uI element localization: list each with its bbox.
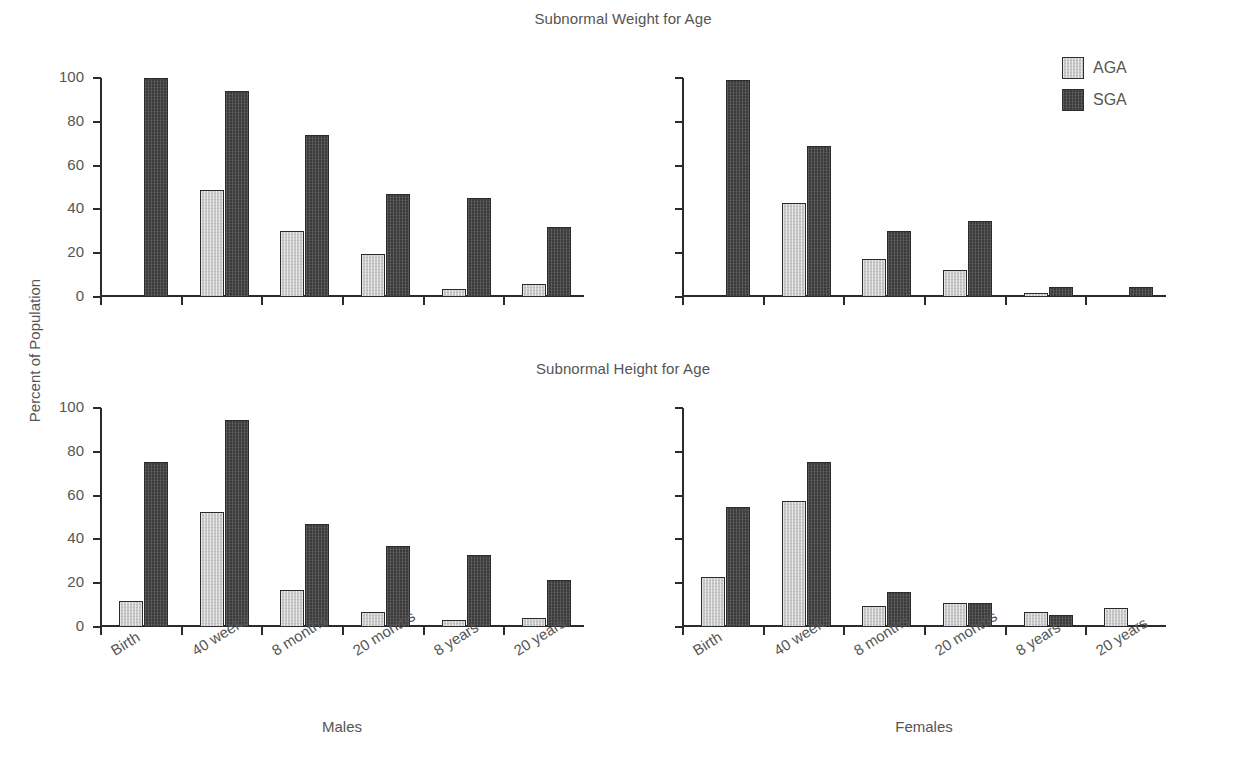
x-axis-tick — [682, 296, 684, 305]
y-axis-tick-label: 60 — [44, 156, 84, 173]
y-axis-tick — [675, 252, 683, 254]
x-axis-tick — [261, 296, 263, 305]
x-axis-tick — [1005, 296, 1007, 305]
x-axis-tick — [100, 296, 102, 305]
y-axis-tick-label: 40 — [44, 529, 84, 546]
x-axis-tick — [100, 626, 102, 635]
figure-canvas: Subnormal Weight for Age Subnormal Heigh… — [0, 0, 1246, 760]
y-axis-tick-label: 100 — [44, 68, 84, 85]
bar-aga-8-months — [862, 259, 886, 297]
y-axis-tick-label: 0 — [44, 617, 84, 634]
plot-area: 100806040200 — [100, 78, 584, 297]
bar-aga-40-weeks — [782, 501, 806, 627]
bar-sga-20-years — [1129, 287, 1153, 297]
x-axis-tick — [181, 626, 183, 635]
x-axis-category-label: Birth — [689, 628, 724, 659]
plot-area — [682, 78, 1166, 297]
legend-label-aga: AGA — [1093, 59, 1127, 77]
x-axis-tick — [924, 296, 926, 305]
y-axis-line — [100, 78, 102, 297]
y-axis-tick: 20 — [93, 252, 101, 254]
x-axis-tick — [682, 626, 684, 635]
bar-aga-40-weeks — [782, 203, 806, 297]
y-axis-tick: 100 — [93, 407, 101, 409]
y-axis-tick: 80 — [93, 121, 101, 123]
x-axis-tick — [342, 296, 344, 305]
x-axis-tick — [423, 296, 425, 305]
y-axis-tick: 80 — [93, 451, 101, 453]
x-axis-tick — [763, 626, 765, 635]
x-axis-tick — [503, 296, 505, 305]
plot-area: 100806040200Birth40 weeks8 months20 mont… — [100, 408, 584, 627]
y-axis-tick — [675, 451, 683, 453]
plot-area: Birth40 weeks8 months20 months8 years20 … — [682, 408, 1166, 627]
x-axis-tick — [843, 296, 845, 305]
bar-sga-8-months — [305, 524, 329, 627]
panel-weight-females — [682, 78, 1166, 297]
bar-sga-40-weeks — [225, 420, 249, 627]
bar-aga-birth — [119, 601, 143, 627]
y-axis-tick — [675, 538, 683, 540]
bar-aga-birth — [701, 577, 725, 627]
bar-aga-20-years — [522, 284, 546, 297]
y-axis-tick-label: 60 — [44, 486, 84, 503]
chart-title-weight: Subnormal Weight for Age — [0, 10, 1246, 27]
y-axis-tick — [675, 208, 683, 210]
bar-sga-8-years — [467, 198, 491, 297]
bar-sga-20-months — [386, 194, 410, 297]
y-axis-tick-label: 80 — [44, 442, 84, 459]
y-axis-tick: 60 — [93, 495, 101, 497]
y-axis-tick-label: 80 — [44, 112, 84, 129]
x-axis-category-label: Birth — [107, 628, 142, 659]
bar-aga-40-weeks — [200, 190, 224, 297]
panel-height-females: Birth40 weeks8 months20 months8 years20 … — [682, 408, 1166, 627]
bar-sga-8-years — [467, 555, 491, 627]
y-axis-line — [100, 408, 102, 627]
x-axis-tick — [423, 626, 425, 635]
y-axis-tick-label: 100 — [44, 398, 84, 415]
panel-xtitle-males: Males — [100, 718, 584, 735]
y-axis-tick-label: 0 — [44, 287, 84, 304]
bar-aga-20-years — [1104, 295, 1128, 297]
y-axis-tick-label: 40 — [44, 199, 84, 216]
x-axis-tick — [503, 626, 505, 635]
bar-aga-40-weeks — [200, 512, 224, 627]
x-axis-tick — [1085, 626, 1087, 635]
y-axis-tick: 100 — [93, 77, 101, 79]
panel-height-males: 100806040200Birth40 weeks8 months20 mont… — [100, 408, 584, 627]
bar-sga-20-months — [968, 221, 992, 297]
x-axis-tick — [843, 626, 845, 635]
y-axis-label: Percent of Population — [26, 221, 43, 481]
y-axis-tick: 60 — [93, 165, 101, 167]
bar-aga-20-months — [361, 254, 385, 297]
panel-weight-males: 100806040200 — [100, 78, 584, 297]
y-axis-tick — [675, 495, 683, 497]
x-axis-tick — [924, 626, 926, 635]
bar-aga-8-years — [1024, 293, 1048, 297]
bar-sga-40-weeks — [807, 462, 831, 627]
x-axis-tick — [1005, 626, 1007, 635]
aga-swatch-icon — [1062, 57, 1084, 79]
bar-sga-40-weeks — [225, 91, 249, 297]
y-axis-tick — [675, 121, 683, 123]
chart-title-height: Subnormal Height for Age — [0, 360, 1246, 377]
y-axis-tick — [675, 582, 683, 584]
bar-sga-birth — [726, 507, 750, 627]
x-axis-tick — [763, 296, 765, 305]
y-axis-tick — [675, 165, 683, 167]
bar-sga-8-years — [1049, 287, 1073, 297]
y-axis-line — [682, 408, 684, 627]
bar-aga-8-months — [280, 590, 304, 627]
y-axis-tick-label: 20 — [44, 573, 84, 590]
bar-sga-birth — [144, 78, 168, 297]
bar-aga-20-months — [943, 270, 967, 297]
bar-sga-40-weeks — [807, 146, 831, 297]
y-axis-tick — [675, 407, 683, 409]
y-axis-line — [682, 78, 684, 297]
x-axis-tick — [342, 626, 344, 635]
y-axis-tick: 20 — [93, 582, 101, 584]
bar-sga-8-months — [305, 135, 329, 297]
bar-sga-8-months — [887, 231, 911, 297]
y-axis-tick: 40 — [93, 538, 101, 540]
bar-sga-birth — [144, 462, 168, 627]
